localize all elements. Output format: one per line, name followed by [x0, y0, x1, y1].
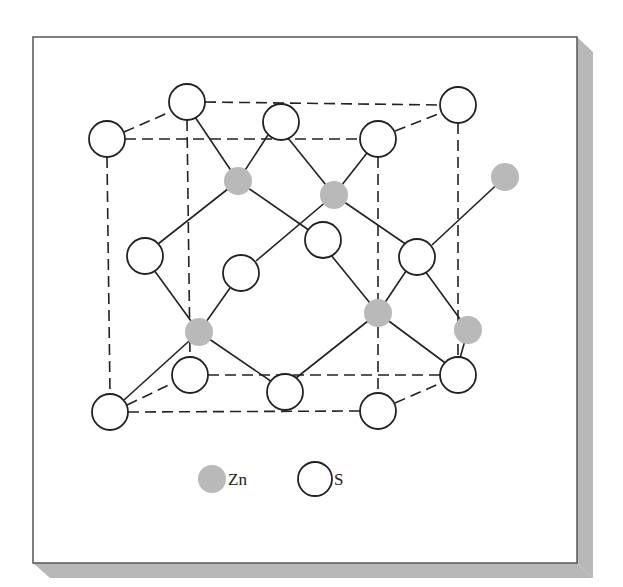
- zn-atom: [364, 299, 392, 327]
- s-atom: [399, 239, 435, 275]
- s-atom: [169, 84, 205, 120]
- s-atom: [360, 393, 396, 429]
- zn-atom: [224, 167, 252, 195]
- legend-zn-label: Zn: [228, 470, 247, 489]
- s-atom: [172, 357, 208, 393]
- zn-atom: [320, 181, 348, 209]
- zn-atom: [185, 318, 213, 346]
- s-atom: [440, 357, 476, 393]
- s-atom: [223, 255, 259, 291]
- legend-s-label: S: [334, 470, 343, 489]
- legend-s-swatch: [298, 462, 332, 496]
- s-atom: [440, 87, 476, 123]
- s-atom: [89, 121, 125, 157]
- zns-crystal-structure-diagram: Zn S: [0, 0, 623, 587]
- s-atom: [263, 104, 299, 140]
- s-atom: [267, 374, 303, 410]
- s-atom: [127, 238, 163, 274]
- s-atom: [92, 394, 128, 430]
- legend-zn-swatch: [198, 465, 226, 493]
- zn-atom: [491, 163, 519, 191]
- zn-atom: [454, 316, 482, 344]
- s-atom: [360, 121, 396, 157]
- s-atom: [305, 222, 341, 258]
